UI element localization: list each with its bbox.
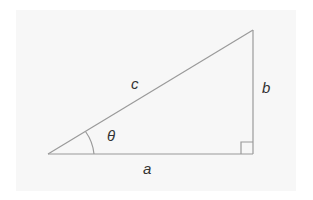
side-c-line bbox=[48, 30, 253, 154]
label-a: a bbox=[143, 161, 151, 176]
triangle-figure bbox=[0, 0, 313, 200]
label-c: c bbox=[131, 76, 139, 91]
label-theta: θ bbox=[107, 128, 115, 143]
label-b: b bbox=[262, 80, 270, 95]
right-angle-marker-icon bbox=[241, 142, 253, 154]
angle-arc-icon bbox=[86, 132, 95, 155]
